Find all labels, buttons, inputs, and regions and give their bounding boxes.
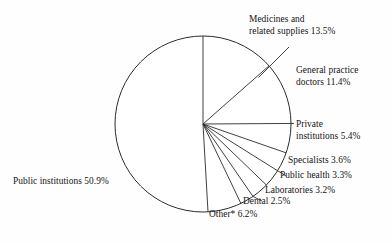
slice-label-general-practice-line2: doctors 11.4% <box>296 77 350 87</box>
slice-label-medicines: Medicines and related supplies 13.5% <box>249 14 335 37</box>
slice-label-general-practice: General practice doctors 11.4% <box>296 65 358 88</box>
slice-label-private-institutions: Private institutions 5.4% <box>296 119 360 142</box>
slice-label-private-institutions-line1: Private <box>296 119 323 129</box>
slice-label-medicines-line1: Medicines and <box>249 14 305 24</box>
slice-label-medicines-line2: related supplies 13.5% <box>249 26 335 36</box>
pie-chart-figure: Medicines and related supplies 13.5% Gen… <box>0 0 392 243</box>
slice-label-dental: Dental 2.5% <box>243 196 290 208</box>
slice-label-laboratories: Laboratories 3.2% <box>265 185 335 197</box>
slice-label-general-practice-line1: General practice <box>296 65 358 75</box>
slice-label-private-institutions-line2: institutions 5.4% <box>296 131 360 141</box>
slice-label-other: Other* 6.2% <box>209 209 257 221</box>
slice-label-public-health: Public health 3.3% <box>280 170 352 182</box>
slice-divider-general-practice <box>203 123 291 124</box>
slice-label-specialists: Specialists 3.6% <box>288 155 351 167</box>
slice-label-public-institutions: Public institutions 50.9% <box>13 176 109 188</box>
